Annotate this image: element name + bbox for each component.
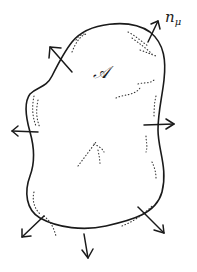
region-diagram: 𝒜 nμ (0, 0, 197, 272)
normal-arrow-bottom (82, 234, 93, 258)
normal-arrow-lower-left (22, 216, 44, 237)
normal-label: nμ (165, 8, 181, 27)
normal-arrow-lower-right (138, 207, 164, 233)
region-boundary (26, 24, 165, 229)
normal-label-base: n (165, 8, 175, 26)
normal-label-subscript: μ (175, 16, 182, 27)
region-label: 𝒜 (93, 62, 114, 82)
normal-arrows (12, 21, 174, 258)
normal-arrow-left (12, 126, 38, 136)
normal-arrow-upper-left (49, 47, 72, 72)
